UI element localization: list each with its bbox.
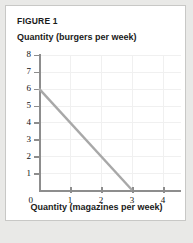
- y-axis-title: Quantity (burgers per week): [17, 32, 137, 42]
- x-axis-title: Quantity (magazines per week): [6, 202, 187, 212]
- figure-label: FIGURE 1: [17, 16, 58, 26]
- figure-card: FIGURE 1 Quantity (burgers per week) 123…: [5, 5, 186, 221]
- budget-constraint-line: [17, 46, 181, 198]
- series-polyline: [39, 89, 132, 190]
- chart-plot-area: 12345678 1234 0: [17, 46, 181, 198]
